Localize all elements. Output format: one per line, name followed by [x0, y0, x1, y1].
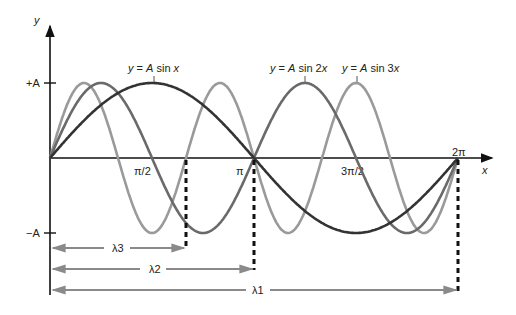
tick-label-plus-a: +A — [26, 77, 40, 89]
y-axis-label: y — [33, 14, 41, 26]
tick-label-two-pi: 2π — [452, 146, 466, 158]
x-axis-label: x — [481, 164, 488, 176]
standing-wave-diagram: y x +A −A π/2 π 3π/2 2π y = A sin x y = … — [0, 0, 516, 315]
tick-label-pi-half: π/2 — [134, 165, 151, 177]
lambda3-label: λ3 — [112, 242, 124, 254]
lambda2-label: λ2 — [149, 263, 161, 275]
tick-label-minus-a: −A — [26, 227, 40, 239]
tick-label-pi: π — [236, 165, 244, 177]
label-sin-x: y = A sin x — [127, 62, 180, 74]
label-sin-2x: y = A sin 2x — [269, 62, 328, 74]
lambda1-label: λ1 — [252, 284, 264, 296]
label-sin-3x: y = A sin 3x — [341, 62, 400, 74]
